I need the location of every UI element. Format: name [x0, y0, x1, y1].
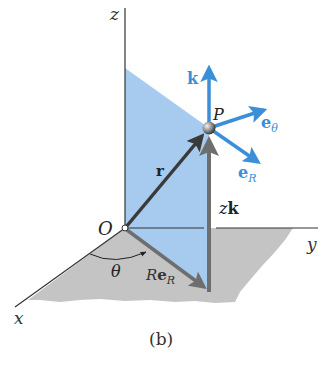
unit-vector-e-theta-label: eθ — [261, 113, 278, 135]
cylindrical-coordinates-diagram: z y x O P r zk ReR θ k eθ eR (b) — [0, 0, 334, 375]
unit-vector-k-label: k — [187, 69, 199, 88]
radial-component-e: e — [157, 266, 167, 284]
unit-vector-e-R-label: eR — [238, 163, 256, 185]
y-axis-label: y — [306, 234, 317, 254]
x-axis-label: x — [14, 308, 24, 328]
theta-label: θ — [111, 262, 121, 281]
unit-vector-e-R — [209, 128, 258, 162]
figure-caption: (b) — [149, 329, 173, 349]
radial-component-main: R — [145, 266, 157, 284]
point-p-label: P — [212, 105, 224, 124]
e-R-main: e — [238, 163, 248, 182]
radial-component-sub: R — [166, 274, 175, 287]
origin-marker — [122, 225, 128, 231]
position-vector-label: r — [156, 162, 165, 180]
z-axis-label: z — [109, 4, 120, 24]
vertical-component-label: zk — [218, 199, 239, 218]
e-theta-sub: θ — [271, 122, 278, 135]
e-theta-main: e — [261, 113, 271, 132]
vertical-component-k: k — [227, 199, 239, 218]
origin-label: O — [98, 218, 113, 239]
e-R-sub: R — [247, 172, 256, 185]
